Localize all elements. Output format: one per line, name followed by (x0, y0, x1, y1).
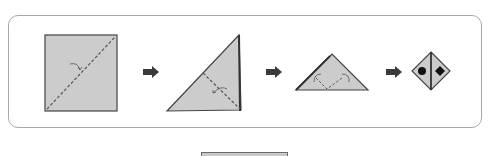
step-1-square (44, 34, 118, 112)
arrow-right-icon (386, 66, 402, 78)
step-2-triangle (165, 33, 245, 113)
arrow-right-icon (143, 66, 159, 78)
bottom-box (201, 152, 288, 156)
step-3-triangle (294, 52, 370, 92)
arrow-right-icon (266, 66, 282, 78)
circle-mark-icon (418, 67, 426, 75)
step-4-diamond (411, 51, 451, 91)
